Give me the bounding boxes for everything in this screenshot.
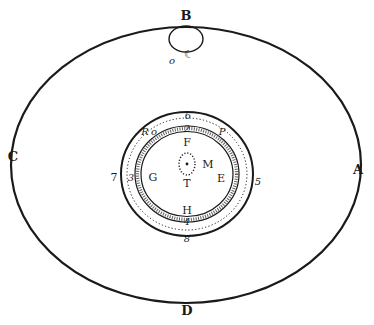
label-8: 8	[184, 233, 190, 244]
top-body-mark: o	[169, 55, 175, 66]
label-2: 2	[183, 123, 190, 134]
label-M: M	[202, 158, 213, 171]
label-4: 4	[183, 216, 190, 227]
label-C: C	[8, 149, 18, 164]
label-3: 3	[128, 172, 134, 183]
label-H: H	[182, 204, 192, 217]
label-G: G	[149, 171, 158, 184]
label-B: B	[181, 8, 192, 23]
central-point	[186, 163, 189, 166]
label-E: E	[217, 172, 225, 185]
label-T: T	[183, 177, 191, 190]
label-6: 6	[185, 110, 192, 121]
label-P: P	[218, 126, 226, 137]
label-R: R	[140, 126, 149, 137]
label-o-mark: o	[151, 126, 157, 137]
orbit-diagram: ☾ o B C A D 6 2 7 3 5 4 8 R o P F M T G …	[0, 0, 374, 325]
label-D: D	[181, 303, 192, 318]
label-F: F	[183, 136, 191, 149]
crescent-moon-icon: ☾	[184, 48, 194, 61]
label-7: 7	[111, 171, 118, 184]
label-5: 5	[255, 176, 261, 187]
outer-orbit	[11, 27, 361, 303]
label-A: A	[352, 162, 364, 177]
